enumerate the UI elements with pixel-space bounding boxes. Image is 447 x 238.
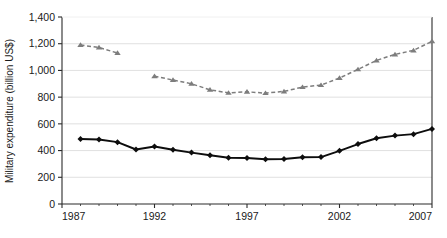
y-tick-label: 800	[37, 91, 55, 103]
y-tick-label: 1,200	[29, 37, 55, 49]
x-tick-label: 1992	[143, 210, 167, 222]
chart-container: 02004006008001,0001,2001,400 19871992199…	[0, 0, 447, 238]
y-tick-label: 0	[49, 198, 55, 210]
x-tick-label: 1987	[62, 210, 86, 222]
chart-background	[0, 0, 447, 238]
y-tick-label: 400	[37, 144, 55, 156]
x-tick-label: 2007	[409, 210, 433, 222]
y-tick-label: 200	[37, 171, 55, 183]
military-expenditure-line-chart: 02004006008001,0001,2001,400 19871992199…	[0, 0, 447, 238]
x-tick-label: 2002	[328, 210, 352, 222]
y-axis-label: Military expenditure (billion US$)	[4, 39, 15, 183]
y-tick-label: 1,400	[29, 11, 55, 23]
y-tick-label: 1,000	[29, 64, 55, 76]
x-tick-label: 1997	[235, 210, 259, 222]
y-tick-label: 600	[37, 118, 55, 130]
